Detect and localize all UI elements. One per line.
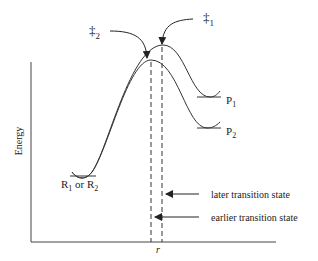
ts2-label: ‡2 [89,23,100,41]
earlier-ts-label: earlier transition state [211,212,298,223]
ts1-arrow [162,19,193,44]
ts2-arrow [110,31,147,58]
reaction-path-2 [72,60,220,178]
x-axis-label: r [156,244,160,255]
later-ts-label: later transition state [211,189,290,200]
energy-diagram: ‡2 ‡1 P1 P2 R1 or R2 Energy r later tran… [0,0,318,261]
product1-label: P1 [226,94,236,109]
reactant-label: R1 or R2 [61,178,98,193]
reaction-path-1 [72,45,220,178]
product2-label: P2 [226,125,236,140]
ts1-label: ‡1 [203,10,214,28]
y-axis-label: Energy [13,127,24,156]
